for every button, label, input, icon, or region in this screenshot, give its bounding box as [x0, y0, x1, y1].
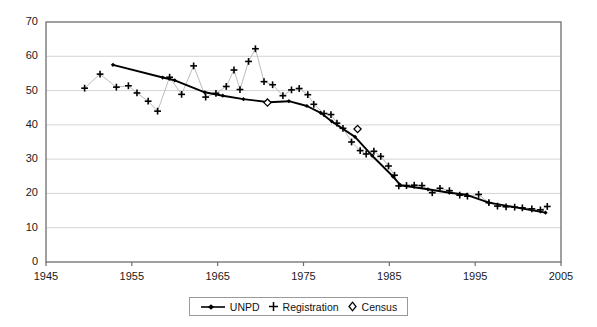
legend-marker-line-with-dot: [200, 298, 226, 316]
x-axis-tick-label: 1995: [455, 271, 495, 282]
series-registration-markers: [81, 45, 550, 213]
y-axis-tick-label: 10: [8, 222, 38, 233]
legend-marker-plus: [268, 298, 279, 316]
legend-item-unpd: UNPD: [200, 298, 260, 316]
x-axis-tick-label: 1955: [112, 271, 152, 282]
chart-legend: UNPD Registration Census: [189, 297, 408, 316]
legend-label-registration: Registration: [283, 302, 339, 312]
legend-label-unpd: UNPD: [230, 302, 260, 312]
legend-item-registration: Registration: [268, 298, 339, 316]
series-unpd-markers: [111, 63, 548, 215]
y-axis-tick-label: 40: [8, 119, 38, 130]
chart-container: 706050403020100 194519551965197519851995…: [0, 0, 597, 327]
x-axis-tick-label: 2005: [541, 271, 581, 282]
x-axis-tick-label: 1945: [26, 271, 66, 282]
y-axis-tick-label: 20: [8, 187, 38, 198]
x-axis-tick-label: 1985: [369, 271, 409, 282]
y-axis-tick-label: 50: [8, 85, 38, 96]
y-axis-tick-label: 0: [8, 256, 38, 267]
x-axis-tick-label: 1965: [198, 271, 238, 282]
gridlines: [46, 56, 561, 227]
y-axis-tick-label: 30: [8, 153, 38, 164]
legend-item-census: Census: [347, 298, 398, 316]
series-unpd-line: [113, 65, 546, 213]
series-registration-line: [85, 49, 548, 210]
plot-frame: [46, 22, 561, 262]
legend-label-census: Census: [362, 302, 398, 312]
y-axis-tick-label: 60: [8, 50, 38, 61]
legend-marker-open-diamond: [347, 298, 358, 316]
y-axis-tick-label: 70: [8, 16, 38, 27]
x-axis-tick-label: 1975: [284, 271, 324, 282]
